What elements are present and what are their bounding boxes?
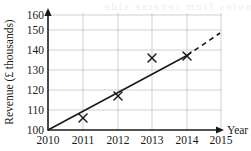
horizontal-gridlines (48, 15, 222, 110)
y-tick-label-150: 150 (27, 24, 45, 36)
x-tick-label-2010: 2010 (37, 134, 60, 146)
y-axis (44, 8, 51, 130)
line-of-best-fit (48, 56, 187, 131)
chart-canvas: 100 110 120 130 140 150 160 2010 2011 20… (0, 0, 251, 151)
y-tick-label-110: 110 (27, 104, 44, 116)
x-axis-arrowhead (216, 127, 224, 134)
x-tick-label-2013: 2013 (141, 134, 164, 146)
x-tick-labels: 2010 2011 2012 2013 2014 2015 (37, 134, 233, 146)
y-tick-label-120: 120 (27, 84, 45, 96)
y-axis-title: Revenue (£ thousands) (3, 19, 16, 125)
line-of-best-fit-extrapolation (187, 33, 220, 56)
y-tick-label-130: 130 (27, 64, 45, 76)
x-axis (48, 127, 224, 134)
y-tick-label-160: 160 (27, 9, 45, 21)
vertical-gridlines (83, 13, 221, 130)
y-tick-labels: 100 110 120 130 140 150 160 (27, 9, 45, 136)
y-tick-label-140: 140 (27, 44, 45, 56)
x-tick-label-2012: 2012 (107, 134, 130, 146)
x-axis-title: Year (227, 124, 248, 136)
x-tick-label-2014: 2014 (176, 134, 199, 146)
y-axis-arrowhead (44, 8, 51, 16)
revenue-scatter-chart: notes from reverse side (0, 0, 251, 151)
x-tick-label-2011: 2011 (72, 134, 95, 146)
